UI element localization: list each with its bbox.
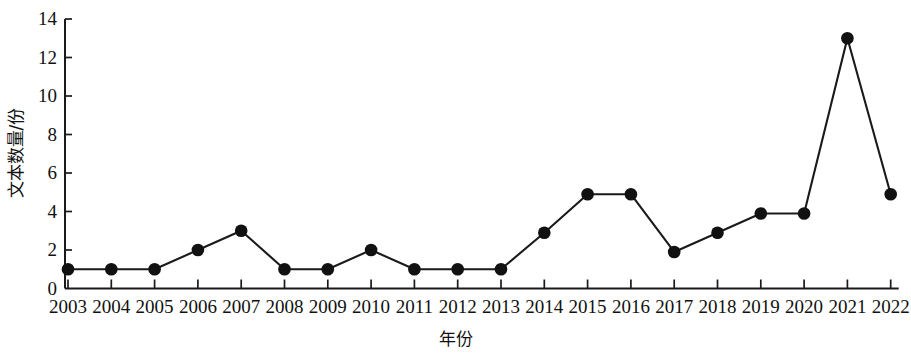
data-point	[192, 244, 205, 257]
axis-ticks	[65, 19, 891, 289]
data-point	[581, 188, 594, 201]
data-point	[148, 263, 161, 276]
data-point-markers	[62, 32, 897, 276]
data-point	[365, 244, 378, 257]
data-point	[62, 263, 75, 276]
axes	[65, 19, 899, 289]
data-point	[278, 263, 291, 276]
data-point	[322, 263, 335, 276]
data-point	[841, 32, 854, 45]
data-point	[408, 263, 421, 276]
line-chart: 文本数量/份 年份 02468101214 200320042005200620…	[0, 0, 911, 355]
data-point	[451, 263, 464, 276]
data-point	[105, 263, 118, 276]
plot-area	[0, 0, 911, 355]
data-point	[538, 226, 551, 239]
data-point	[711, 226, 724, 239]
data-point	[495, 263, 508, 276]
data-point	[625, 188, 638, 201]
data-point	[668, 246, 681, 259]
data-point	[798, 207, 811, 220]
data-line	[68, 38, 891, 269]
data-point	[235, 224, 248, 237]
data-point	[884, 188, 897, 201]
data-point	[755, 207, 768, 220]
